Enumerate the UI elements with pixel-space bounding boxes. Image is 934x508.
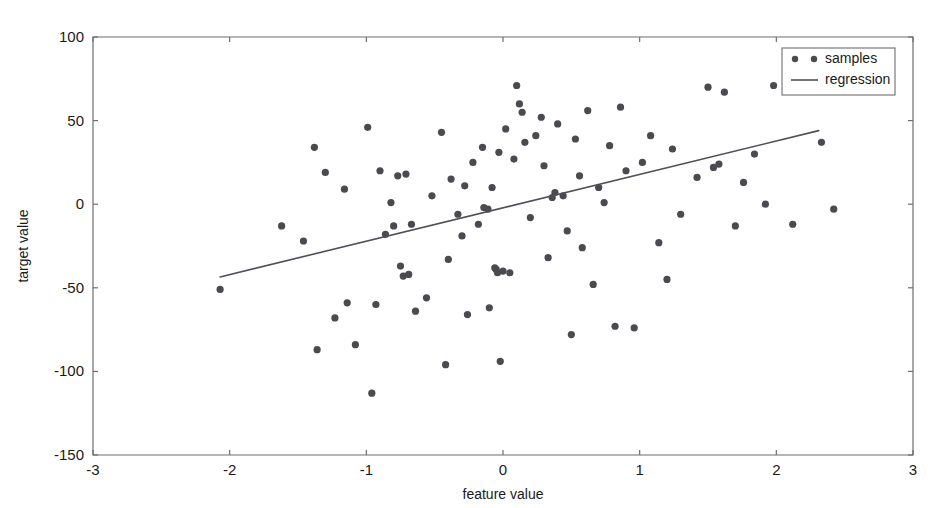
- x-tick-label: 2: [772, 461, 780, 478]
- legend-sample-marker-icon: [792, 56, 798, 62]
- plot-frame: [93, 37, 913, 455]
- x-tick-label: -1: [360, 461, 373, 478]
- sample-point: [521, 139, 528, 146]
- y-tick-label: -100: [54, 362, 84, 379]
- sample-point: [405, 271, 412, 278]
- sample-point: [486, 304, 493, 311]
- sample-point: [497, 358, 504, 365]
- sample-point: [458, 232, 465, 239]
- sample-point: [300, 237, 307, 244]
- sample-point: [390, 222, 397, 229]
- sample-point: [663, 276, 670, 283]
- sample-point: [527, 214, 534, 221]
- sample-point: [740, 179, 747, 186]
- sample-point: [631, 324, 638, 331]
- sample-point: [751, 150, 758, 157]
- sample-point: [488, 184, 495, 191]
- sample-point: [408, 221, 415, 228]
- regression-line-layer: [220, 131, 819, 277]
- y-tick-label: -150: [54, 446, 84, 463]
- sample-point: [475, 221, 482, 228]
- x-tick-label: 3: [909, 461, 917, 478]
- sample-point: [341, 186, 348, 193]
- y-tick-label: -50: [62, 279, 84, 296]
- x-tick-label: 1: [635, 461, 643, 478]
- sample-point: [394, 172, 401, 179]
- x-axis-title: feature value: [463, 486, 544, 502]
- sample-point: [622, 167, 629, 174]
- sample-point: [506, 269, 513, 276]
- sample-point: [217, 286, 224, 293]
- sample-point: [311, 144, 318, 151]
- legend-label: regression: [825, 71, 890, 87]
- y-axis-title: target value: [15, 209, 31, 282]
- sample-point: [479, 144, 486, 151]
- sample-point: [669, 145, 676, 152]
- sample-point: [423, 294, 430, 301]
- x-tick-label: 0: [499, 461, 507, 478]
- sample-point: [789, 221, 796, 228]
- legend-sample-marker-icon: [811, 56, 817, 62]
- sample-point: [502, 125, 509, 132]
- sample-point: [519, 109, 526, 116]
- sample-point: [495, 149, 502, 156]
- regression-line: [220, 131, 819, 277]
- sample-point: [568, 331, 575, 338]
- sample-point: [762, 201, 769, 208]
- x-tick-label: -3: [86, 461, 99, 478]
- data-points-layer: [217, 82, 838, 397]
- sample-point: [655, 239, 662, 246]
- sample-point: [445, 256, 452, 263]
- sample-point: [510, 155, 517, 162]
- sample-point: [331, 314, 338, 321]
- sample-point: [715, 160, 722, 167]
- sample-point: [704, 84, 711, 91]
- sample-point: [352, 341, 359, 348]
- sample-point: [611, 323, 618, 330]
- sample-point: [513, 82, 520, 89]
- y-tick-label: 0: [76, 195, 84, 212]
- sample-point: [402, 171, 409, 178]
- sample-point: [538, 114, 545, 121]
- sample-point: [572, 135, 579, 142]
- sample-point: [454, 211, 461, 218]
- sample-point: [576, 172, 583, 179]
- plot-canvas: -3-2-10123-150-100-50050100feature value…: [0, 0, 934, 508]
- sample-point: [590, 281, 597, 288]
- sample-point: [554, 120, 561, 127]
- sample-point: [372, 301, 379, 308]
- sample-point: [617, 104, 624, 111]
- x-tick-label: -2: [223, 461, 236, 478]
- sample-point: [545, 254, 552, 261]
- sample-point: [376, 167, 383, 174]
- sample-point: [830, 206, 837, 213]
- sample-point: [438, 129, 445, 136]
- axis-label-layer: -3-2-10123-150-100-50050100feature value…: [15, 28, 917, 502]
- sample-point: [387, 199, 394, 206]
- sample-point: [532, 132, 539, 139]
- sample-point: [639, 159, 646, 166]
- sample-point: [397, 262, 404, 269]
- sample-point: [677, 211, 684, 218]
- sample-point: [447, 176, 454, 183]
- sample-point: [516, 100, 523, 107]
- sample-point: [442, 361, 449, 368]
- legend-layer: samplesregression: [782, 48, 895, 95]
- sample-point: [344, 299, 351, 306]
- sample-point: [693, 174, 700, 181]
- sample-point: [564, 227, 571, 234]
- sample-point: [540, 162, 547, 169]
- sample-point: [428, 192, 435, 199]
- scatter-plot-figure: -3-2-10123-150-100-50050100feature value…: [0, 0, 934, 508]
- sample-point: [601, 199, 608, 206]
- y-tick-label: 100: [59, 28, 84, 45]
- sample-point: [278, 222, 285, 229]
- sample-point: [732, 222, 739, 229]
- sample-point: [579, 244, 586, 251]
- sample-point: [368, 390, 375, 397]
- y-tick-label: 50: [67, 112, 84, 129]
- sample-point: [818, 139, 825, 146]
- sample-point: [314, 346, 321, 353]
- sample-point: [412, 308, 419, 315]
- sample-point: [364, 124, 371, 131]
